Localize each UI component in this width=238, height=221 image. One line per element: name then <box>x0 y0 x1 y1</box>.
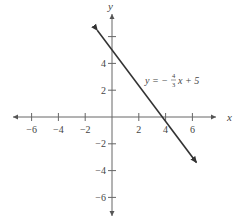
x-tick-label: 6 <box>190 124 195 135</box>
y-tick-label: 4 <box>101 58 106 69</box>
fraction-numerator: 4 <box>172 72 176 79</box>
x-tick-label: −6 <box>26 124 37 135</box>
x-tick-label: 2 <box>136 124 141 135</box>
equation-left: y = − <box>144 75 168 86</box>
coordinate-plane: −6−4−2246−6−4−224 x y y = − 4 3 x + 5 <box>0 0 238 221</box>
tick-labels: −6−4−2246−6−4−224 <box>26 58 195 203</box>
y-axis-label: y <box>107 0 113 12</box>
fraction-denominator: 3 <box>172 81 175 88</box>
y-tick-label: −4 <box>95 165 106 176</box>
y-tick-label: 2 <box>101 85 106 96</box>
x-tick-label: −4 <box>53 124 64 135</box>
x-axis-label: x <box>226 111 232 123</box>
y-tick-label: −2 <box>95 138 106 149</box>
x-tick-label: −2 <box>80 124 91 135</box>
equation-right: x + 5 <box>177 75 199 86</box>
equation-label: y = − 4 3 x + 5 <box>144 72 199 88</box>
x-tick-label: 4 <box>163 124 168 135</box>
y-tick-label: −6 <box>95 192 106 203</box>
